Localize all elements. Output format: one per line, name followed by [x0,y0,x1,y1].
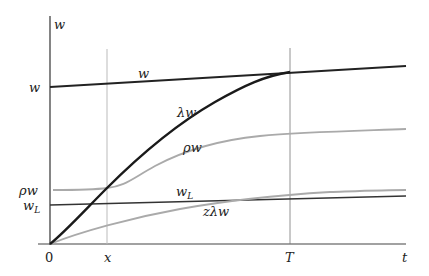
curve-w [50,66,406,87]
y-tick-rho-w-label: ρw [18,183,38,198]
y-axis-label: w [54,17,65,32]
curve-w-label: w [138,66,149,81]
x-axis-label: t [402,250,408,265]
y-tick-w-L-label: wL [23,198,40,215]
curve-rho-w [53,129,406,190]
curve-w-L-label: wL [176,184,193,201]
curve-rho-w-label: ρw [182,140,202,155]
x-tick-x-label: x [104,250,112,265]
origin-label: 0 [45,250,53,265]
curve-z-lambda-w-label: zλw [202,204,229,219]
curve-lambda-w-label: λw [176,105,196,120]
x-tick-T-label: T [285,250,295,265]
y-tick-w-label: w [29,80,40,95]
wage-diagram: w w ρw wL 0 x T t w λw ρw wL zλw [0,0,429,276]
